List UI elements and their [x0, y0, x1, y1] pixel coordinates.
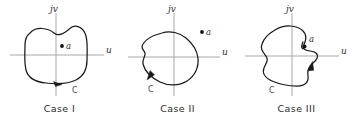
horizontal-axis-label: u — [222, 47, 228, 57]
panel-case-2: jv u a C Case II — [118, 0, 237, 127]
panel-case-1: jv u a C Case I — [0, 0, 119, 127]
caption-case-3: Case III — [237, 103, 356, 114]
contour-label-c: C — [148, 85, 154, 94]
vertical-axis-label: jv — [166, 4, 176, 14]
horizontal-axis-label: u — [341, 46, 347, 56]
contour-cases-figure: jv u a C Case I jv u — [0, 0, 356, 127]
contour-label-c: C — [72, 86, 78, 95]
point-a-dot — [60, 44, 64, 48]
direction-arrowhead — [54, 81, 63, 86]
point-a-label: a — [309, 34, 314, 44]
point-a-label: a — [206, 27, 211, 37]
caption-case-2: Case II — [118, 103, 237, 114]
point-a-dot — [303, 45, 307, 49]
point-a-label: a — [66, 41, 71, 51]
direction-arrowhead — [308, 62, 314, 72]
point-a-dot — [200, 30, 204, 34]
contour-label-c: C — [269, 86, 275, 95]
vertical-axis-label: jv — [284, 4, 294, 14]
horizontal-axis-label: u — [106, 45, 112, 55]
caption-case-1: Case I — [0, 103, 119, 114]
diagram-case-3: jv u a C — [237, 0, 356, 103]
diagram-case-2: jv u a C — [118, 0, 237, 103]
vertical-axis-label: jv — [48, 4, 58, 14]
panel-case-3: jv u a C Case III — [237, 0, 356, 127]
diagram-case-1: jv u a C — [0, 0, 119, 103]
